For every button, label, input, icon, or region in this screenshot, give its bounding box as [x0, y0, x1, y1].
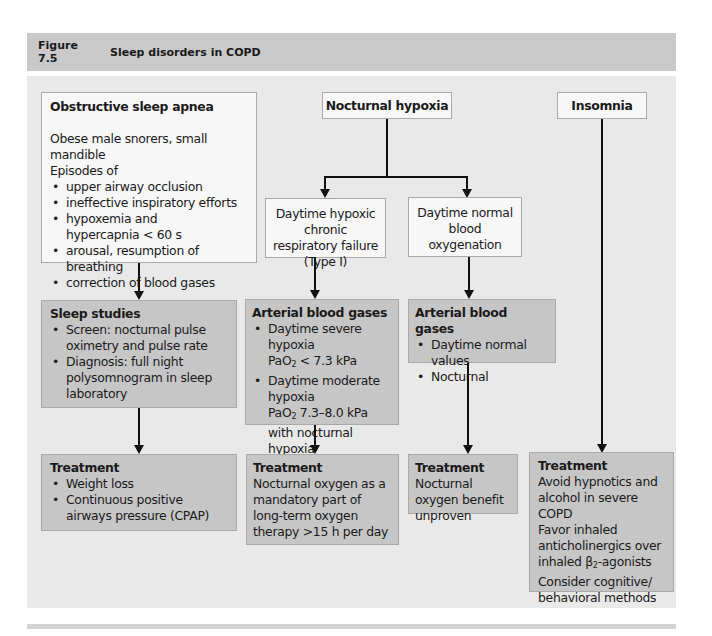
osa-intro-1: Obese male snorers, small mandible [50, 131, 250, 163]
abg-normal-box: Arterial blood gases Daytime normal valu… [408, 299, 556, 363]
connector-hypoxia-branch [324, 176, 468, 178]
figure-title: Sleep disorders in COPD [110, 46, 261, 59]
osa-treatment-list: Weight loss Continuous positive airways … [50, 476, 230, 524]
figure-number: Figure 7.5 [38, 39, 98, 65]
normal-treatment-box: Treatment Nocturnal oxygen benefit unpro… [408, 454, 518, 514]
insomnia-treatment-box: Treatment Avoid hypnotics and alcohol in… [529, 452, 674, 592]
connector-branch-right [466, 176, 468, 190]
arrow-down-icon [320, 189, 330, 198]
insomnia-treatment-line2: Favor inhaled anticholinergics over inha… [538, 522, 669, 574]
arrow-down-icon [310, 445, 320, 454]
osa-intro-2: Episodes of [50, 163, 250, 179]
connector-insomnia-to-treatment [601, 119, 603, 445]
connector-hypoxic-to-abg [314, 258, 316, 291]
connector-hypoxia-trunk [386, 119, 388, 178]
sleep-studies-title: Sleep studies [50, 306, 230, 322]
abg-hypoxic-box: Arterial blood gases Daytime severe hypo… [245, 299, 399, 425]
list-item: Nocturnal [415, 369, 549, 385]
arrow-down-icon [310, 290, 320, 299]
figure-header: Figure 7.5 Sleep disorders in COPD [27, 33, 676, 71]
insomnia-treatment-title: Treatment [538, 458, 669, 474]
list-item: ineffective inspiratory efforts [50, 195, 250, 211]
abg-hypoxic-list: Daytime severe hypoxia PaO2 < 7.3 kPa Da… [252, 321, 392, 457]
arrow-down-icon [464, 290, 474, 299]
list-item: Screen: nocturnal pulse oximetry and pul… [50, 322, 230, 354]
connector-abg-normal-to-treatment [467, 363, 469, 446]
pao2-label: PaO [268, 405, 291, 420]
abg-normal-title: Arterial blood gases [415, 305, 549, 337]
osa-treatment-title: Treatment [50, 460, 230, 476]
nocturnal-hypoxia-title: Nocturnal hypoxia [326, 98, 449, 113]
arrow-down-icon [463, 445, 473, 454]
list-item: arousal, resumption of breathing [50, 243, 250, 275]
pao2-label: PaO [268, 353, 291, 368]
list-item: upper airway occlusion [50, 179, 250, 195]
osa-episode-list: upper airway occlusion ineffective inspi… [50, 179, 250, 291]
pao2-value: PaO2 < 7.3 kPa [268, 353, 392, 373]
connector-abg-to-treatment [314, 425, 316, 446]
arrow-down-icon [134, 291, 144, 300]
daytime-hypoxic-box: Daytime hypoxic chronic respiratory fail… [265, 198, 386, 258]
connector-branch-left [324, 176, 326, 190]
abg-item-text: Daytime moderate hypoxia [268, 373, 392, 405]
list-item: Daytime severe hypoxia PaO2 < 7.3 kPa [252, 321, 392, 373]
normal-treatment-text: Nocturnal oxygen benefit unproven [415, 476, 513, 524]
list-item: Weight loss [50, 476, 230, 492]
connector-normal-to-abg [468, 257, 470, 291]
osa-box: Obstructive sleep apnea Obese male snore… [41, 92, 257, 263]
sleep-studies-box: Sleep studies Screen: nocturnal pulse ox… [41, 300, 237, 408]
hypoxic-treatment-text: Nocturnal oxygen as a mandatory part of … [253, 476, 392, 540]
hypoxic-treatment-title: Treatment [253, 460, 392, 476]
list-item: Diagnosis: full night polysomnogram in s… [50, 354, 230, 402]
nocturnal-hypoxia-box: Nocturnal hypoxia [322, 92, 452, 119]
list-item: Continuous positive airways pressure (CP… [50, 492, 230, 524]
insomnia-treatment-line3: Consider cognitive/ behavioral methods [538, 574, 669, 606]
connector-studies-to-treatment [138, 408, 140, 446]
osa-treatment-box: Treatment Weight loss Continuous positiv… [41, 454, 237, 531]
pao2-value: PaO2 7.3–8.0 kPa with nocturnal hypoxia [268, 405, 392, 457]
arrow-down-icon [134, 445, 144, 454]
abg-normal-list: Daytime normal values Nocturnal [415, 337, 549, 385]
list-item: Daytime normal values [415, 337, 549, 369]
footer-rule [27, 624, 676, 629]
abg-item-text: Daytime severe hypoxia [268, 321, 392, 353]
beta-agonist-suffix: -agonists [598, 554, 652, 569]
list-item: hypoxemia and hypercapnia < 60 s [50, 211, 250, 243]
list-item: correction of blood gases [50, 275, 250, 291]
daytime-normal-box: Daytime normal blood oxygenation [408, 197, 522, 257]
insomnia-treatment-line1: Avoid hypnotics and alcohol in severe CO… [538, 474, 669, 522]
sleep-studies-list: Screen: nocturnal pulse oximetry and pul… [50, 322, 230, 402]
list-item: Daytime moderate hypoxia PaO2 7.3–8.0 kP… [252, 373, 392, 457]
normal-treatment-title: Treatment [415, 460, 513, 476]
pao2-range: < 7.3 kPa [296, 353, 357, 368]
osa-title: Obstructive sleep apnea [50, 99, 250, 115]
connector-osa-to-studies [138, 263, 140, 292]
abg-hypoxic-title: Arterial blood gases [252, 305, 392, 321]
insomnia-box: Insomnia [557, 92, 647, 119]
insomnia-title: Insomnia [571, 98, 632, 113]
hypoxic-treatment-box: Treatment Nocturnal oxygen as a mandator… [246, 454, 399, 545]
daytime-normal-label: Daytime normal blood oxygenation [417, 205, 513, 252]
